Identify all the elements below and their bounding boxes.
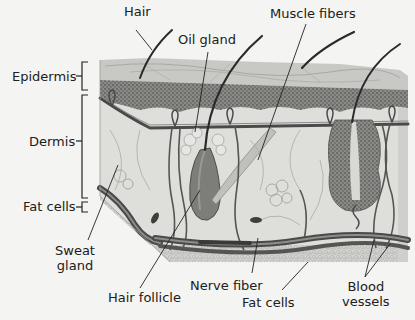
label-hair-follicle: Hair follicle: [108, 290, 181, 305]
label-hair: Hair: [124, 4, 151, 19]
label-sweat-gland-line2: gland: [55, 258, 95, 273]
layer-brackets: [76, 62, 88, 212]
label-oil-gland: Oil gland: [178, 32, 236, 47]
label-blood-vessels: Blood vessels: [342, 279, 390, 309]
label-blood-vessels-line2: vessels: [342, 294, 390, 309]
epidermis-layer: [100, 58, 408, 112]
label-blood-vessels-line1: Blood: [342, 279, 390, 294]
label-dermis: Dermis: [29, 134, 75, 149]
label-sweat-gland-line1: Sweat: [55, 243, 95, 258]
label-muscle-fibers: Muscle fibers: [270, 6, 356, 21]
label-nerve-fiber: Nerve fiber: [190, 278, 263, 293]
label-sweat-gland: Sweat gland: [55, 243, 95, 273]
skin-diagram: Hair Oil gland Muscle fibers Epidermis D…: [0, 0, 415, 320]
label-fat-cells-bottom: Fat cells: [242, 295, 295, 310]
label-epidermis: Epidermis: [12, 69, 77, 84]
label-fat-cells-left: Fat cells: [23, 199, 76, 214]
